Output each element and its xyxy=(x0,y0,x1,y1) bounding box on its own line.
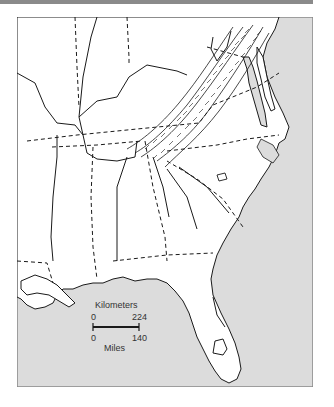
southeast-us-map xyxy=(17,17,313,387)
scale-mi-start: 0 xyxy=(91,333,96,343)
scale-km-start: 0 xyxy=(91,312,96,322)
scale-km-end: 224 xyxy=(132,312,147,322)
top-border-bar xyxy=(0,0,313,4)
scale-mi-label: Miles xyxy=(104,343,125,353)
scale-bar-line xyxy=(92,323,142,331)
lake-small xyxy=(217,173,227,181)
map-frame xyxy=(17,17,313,387)
scale-km-label: Kilometers xyxy=(95,300,138,310)
scale-mi-end: 140 xyxy=(132,333,147,343)
